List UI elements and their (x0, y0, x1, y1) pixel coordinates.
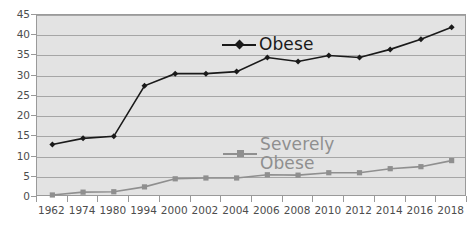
x-axis-tick-label: 2004 (222, 205, 249, 216)
data-point-marker (234, 69, 240, 75)
x-axis-tick-label: 1980 (99, 205, 126, 216)
data-point-marker (80, 135, 86, 141)
data-point-marker (49, 141, 55, 147)
x-axis-tick-mark (374, 196, 375, 202)
y-axis-tick-label: 40 (17, 29, 30, 40)
data-point-marker (449, 158, 454, 163)
x-axis-tick-label: 2008 (284, 205, 311, 216)
x-axis-tick-mark (435, 196, 436, 202)
data-point-marker (357, 54, 363, 60)
x-axis: 1962197419801994200020022004200620082010… (36, 196, 466, 229)
x-axis-tick-label: 1962 (38, 205, 65, 216)
data-point-marker (387, 46, 393, 52)
x-axis-tick-mark (466, 196, 467, 202)
x-axis-tick-mark (190, 196, 191, 202)
data-point-marker (111, 189, 116, 194)
x-axis-tick-mark (67, 196, 68, 202)
x-axis-tick-label: 2018 (437, 205, 464, 216)
data-point-marker (357, 170, 362, 175)
x-axis-tick-mark (282, 196, 283, 202)
x-axis-tick-mark (405, 196, 406, 202)
line-chart: 051015202530354045 Obese Severely Obese … (0, 0, 474, 229)
x-axis-tick-label: 1974 (69, 205, 96, 216)
y-axis-tick-label: 35 (17, 49, 30, 60)
data-point-marker (264, 54, 270, 60)
data-point-marker (203, 175, 208, 180)
y-axis-tick-label: 20 (17, 110, 30, 121)
legend-label-obese: Obese (259, 35, 313, 54)
y-axis-tick-label: 25 (17, 90, 30, 101)
y-axis-tick-label: 5 (23, 171, 30, 182)
data-point-marker (80, 190, 85, 195)
data-point-marker (173, 176, 178, 181)
legend-label-severely-obese: Severely Obese (260, 135, 334, 173)
data-point-marker (418, 36, 424, 42)
legend-swatch-obese-icon (222, 38, 256, 52)
y-axis-tick-label: 10 (17, 150, 30, 161)
data-point-marker (326, 52, 332, 58)
data-point-marker (203, 71, 209, 77)
legend-swatch-severely-obese-icon (223, 147, 257, 161)
data-point-marker (172, 71, 178, 77)
x-axis-tick-label: 2002 (192, 205, 219, 216)
data-point-marker (449, 24, 455, 30)
data-point-marker (234, 175, 239, 180)
x-axis-tick-mark (343, 196, 344, 202)
y-axis: 051015202530354045 (0, 14, 36, 196)
y-axis-tick-label: 0 (23, 191, 30, 202)
x-axis-tick-mark (251, 196, 252, 202)
x-axis-tick-label: 2000 (161, 205, 188, 216)
x-axis-tick-label: 2012 (345, 205, 372, 216)
x-axis-tick-label: 2010 (314, 205, 341, 216)
y-axis-tick-label: 15 (17, 130, 30, 141)
x-axis-tick-mark (36, 196, 37, 202)
data-point-marker (295, 59, 301, 65)
plot-area: Obese Severely Obese (36, 14, 466, 196)
y-axis-tick-label: 30 (17, 69, 30, 80)
x-axis-tick-mark (97, 196, 98, 202)
x-axis-tick-label: 2006 (253, 205, 280, 216)
data-point-marker (418, 164, 423, 169)
data-point-marker (388, 166, 393, 171)
data-point-marker (295, 173, 300, 178)
x-axis-tick-mark (312, 196, 313, 202)
x-axis-tick-mark (128, 196, 129, 202)
legend-entry-severely-obese: Severely Obese (223, 135, 334, 173)
x-axis-tick-label: 2016 (407, 205, 434, 216)
x-axis-tick-label: 1994 (130, 205, 157, 216)
x-axis-tick-mark (159, 196, 160, 202)
y-axis-tick-label: 45 (17, 9, 30, 20)
x-axis-tick-label: 2014 (376, 205, 403, 216)
x-axis-tick-mark (220, 196, 221, 202)
legend-entry-obese: Obese (222, 35, 313, 54)
data-point-marker (142, 184, 147, 189)
